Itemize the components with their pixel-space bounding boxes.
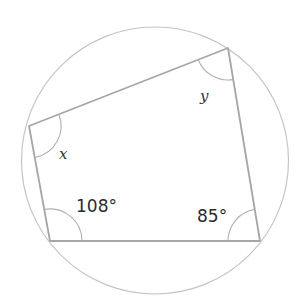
angle-arc-x	[35, 114, 61, 157]
cyclic-quadrilateral-diagram: x y 108° 85°	[0, 0, 305, 308]
angle-label-x: x	[59, 145, 68, 163]
angle-label-108: 108°	[76, 196, 117, 216]
angle-arc-y	[198, 60, 233, 80]
angle-arc-85	[228, 209, 255, 241]
angle-label-85: 85°	[197, 206, 227, 226]
angle-label-y: y	[199, 87, 209, 105]
